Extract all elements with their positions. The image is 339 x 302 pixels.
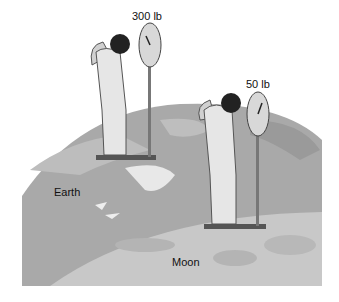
moon-scale-reading: 50 lb xyxy=(246,78,270,90)
earth-label: Earth xyxy=(54,186,80,198)
earth-scale-reading: 300 lb xyxy=(132,10,162,22)
diagram-canvas: 300 lb 50 lb Earth Moon xyxy=(0,0,339,302)
moon-label: Moon xyxy=(172,256,200,268)
illustration xyxy=(0,0,339,302)
